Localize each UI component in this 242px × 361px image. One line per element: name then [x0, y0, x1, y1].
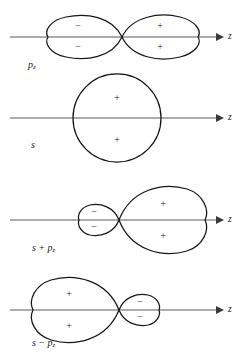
sign-label-s-minus-pz-left-top: +	[66, 288, 72, 299]
panel-label-s-minus-pz-op: −	[39, 337, 45, 348]
sign-label-s-top: +	[114, 92, 120, 103]
sign-label-s-plus-pz-left-bottom: −	[91, 221, 97, 232]
sign-label-s-plus-pz-left-top: −	[91, 206, 97, 217]
panel-label-pz: pz	[27, 59, 36, 71]
panel-label-pz-sub: z	[32, 63, 36, 71]
axis-arrowhead-icon-s-minus-pz	[216, 306, 224, 314]
panel-label-s-plus-pz-main: s	[32, 242, 36, 253]
panel-label-s-main: s	[31, 139, 35, 150]
sign-label-s-minus-pz-right-bottom: −	[137, 311, 143, 322]
sign-label-s-minus-pz-right-top: −	[137, 296, 143, 307]
axis-label-s-plus-pz: z	[227, 214, 232, 224]
axis-label-s-minus-pz: z	[227, 304, 232, 314]
sign-label-s-plus-pz-right-bottom: +	[160, 230, 166, 241]
panel-label-s: s	[31, 139, 35, 150]
figure-canvas: z − − + + pz z + + s	[0, 0, 242, 361]
panel-pz: z − − + + pz	[10, 15, 232, 71]
orbital-figure: z − − + + pz z + + s	[0, 0, 242, 361]
panel-s: z + + s	[10, 74, 232, 162]
sign-label-s-minus-pz-left-bottom: +	[66, 320, 72, 331]
sign-label-pz-right-bottom: +	[157, 41, 163, 52]
axis-label-pz: z	[227, 31, 232, 41]
sign-label-pz-left-bottom: −	[75, 41, 81, 52]
panel-label-s-plus-pz: s+pz	[32, 242, 56, 254]
axis-label-s: z	[227, 112, 232, 122]
axis-arrowhead-icon-s-plus-pz	[216, 216, 224, 224]
sign-label-pz-right-top: +	[157, 20, 163, 31]
panel-label-s-minus-pz-main: s	[32, 337, 36, 348]
panel-label-s-plus-pz-op: +	[39, 242, 45, 253]
sign-label-s-bottom: +	[114, 134, 120, 145]
panel-s-minus-pz: z + + − − s−pz	[10, 278, 232, 350]
sign-label-pz-left-top: −	[75, 20, 81, 31]
panel-label-s-plus-pz-sub: z	[52, 246, 56, 254]
panel-label-s-minus-pz: s−pz	[32, 337, 56, 349]
sign-label-s-plus-pz-right-top: +	[160, 198, 166, 209]
panel-s-plus-pz: z − − + + s+pz	[10, 187, 232, 255]
axis-arrowhead-icon-pz	[216, 33, 224, 41]
axis-arrowhead-icon-s	[216, 114, 224, 122]
panel-label-s-minus-pz-sub: z	[52, 341, 56, 349]
